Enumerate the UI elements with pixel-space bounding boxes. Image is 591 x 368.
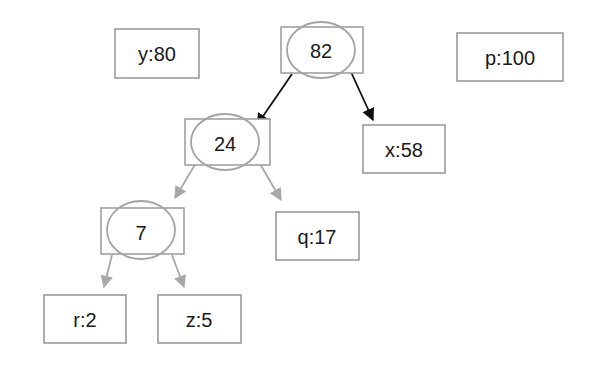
node-label: 24: [214, 133, 236, 155]
leaf-node-p: p:100: [457, 33, 563, 81]
internal-node-24: 24: [185, 114, 270, 170]
leaf-label: p:100: [485, 47, 535, 69]
leaf-label: z:5: [186, 309, 213, 331]
leaf-node-x: x:58: [363, 125, 445, 173]
leaf-node-q: q:17: [276, 212, 359, 260]
edge-82-to-24: [257, 74, 292, 125]
diagram-svg: y:80 p:100 x:58 q:17 r:2 z:5 82: [0, 0, 591, 368]
leaf-label: r:2: [73, 309, 96, 331]
leaf-node-z: z:5: [158, 295, 241, 343]
leaf-label: q:17: [298, 226, 337, 248]
node-label: 82: [310, 40, 332, 62]
edge-7-to-z5: [172, 255, 184, 287]
leaf-label: y:80: [138, 43, 176, 65]
leaf-node-y: y:80: [115, 29, 199, 78]
edge-24-to-7: [175, 163, 196, 198]
leaf-node-r: r:2: [44, 295, 126, 343]
edge-7-to-r2: [104, 255, 112, 287]
huffman-tree-diagram: y:80 p:100 x:58 q:17 r:2 z:5 82: [0, 0, 591, 368]
leaf-label: x:58: [385, 139, 423, 161]
node-label: 7: [135, 222, 146, 244]
internal-node-82: 82: [281, 22, 363, 78]
internal-node-7: 7: [101, 201, 184, 259]
edge-24-to-q17: [259, 162, 281, 200]
edge-82-to-x58: [351, 72, 373, 120]
